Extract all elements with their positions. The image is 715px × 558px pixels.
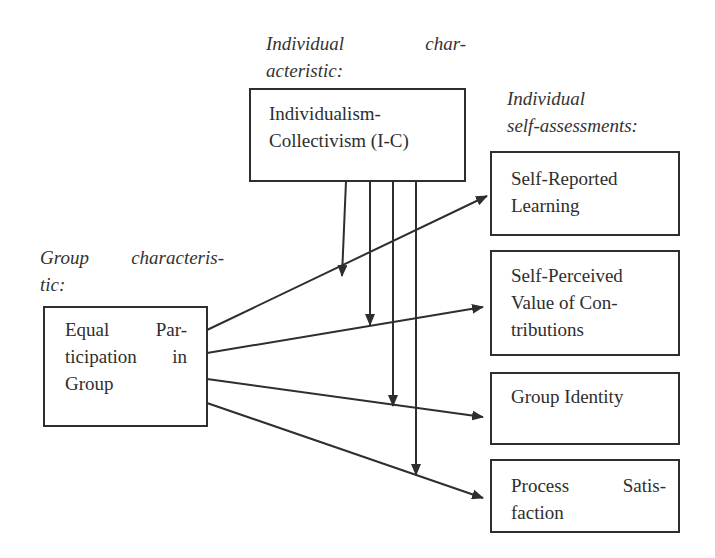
self-perceived-value-box: Self-Perceived Value of Con- tributions xyxy=(490,250,680,356)
individualism-collectivism-box: Individualism- Collectivism (I-C) xyxy=(249,88,466,182)
node-text: Value of Con- xyxy=(511,289,623,316)
node-text: Group xyxy=(65,370,187,397)
arrow-to-self-perceived-value xyxy=(207,307,483,353)
node-text: Individualism- xyxy=(269,100,409,127)
arrow-to-process-satisfaction xyxy=(207,403,483,498)
node-text: Group Identity xyxy=(511,383,623,410)
self-reported-learning-box: Self-Reported Learning xyxy=(490,151,680,236)
node-text: Collectivism (I-C) xyxy=(269,127,409,154)
node-word: in xyxy=(172,343,187,370)
arrow-to-self-reported-learning xyxy=(207,196,487,330)
node-text: Self-Reported xyxy=(511,165,618,192)
node-word: ticipation xyxy=(65,343,137,370)
node-word: Par- xyxy=(156,316,187,343)
arrow-to-group-identity xyxy=(207,379,483,417)
node-text: faction xyxy=(511,499,666,526)
process-satisfaction-box: ProcessSatis- faction xyxy=(490,459,680,533)
group-identity-box: Group Identity xyxy=(490,372,680,445)
node-word: Equal xyxy=(65,316,109,343)
node-text: Self-Perceived xyxy=(511,262,623,289)
node-text: Learning xyxy=(511,192,618,219)
node-text: tributions xyxy=(511,316,623,343)
node-word: Satis- xyxy=(623,472,666,499)
moderation-arrow-1 xyxy=(342,181,346,276)
node-word: Process xyxy=(511,472,569,499)
equal-participation-box: EqualPar- ticipationin Group xyxy=(43,306,208,427)
